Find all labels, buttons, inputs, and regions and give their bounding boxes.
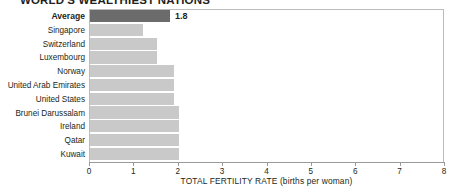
category-label: United States [0, 94, 85, 103]
category-label: Qatar [0, 136, 85, 145]
category-label: Ireland [0, 122, 85, 131]
bar [90, 10, 170, 22]
x-axis-title-main: TOTAL FERTILITY RATE [181, 176, 278, 186]
chart-container: WORLD'S WEALTHIEST NATIONS Average1.8Sin… [0, 0, 457, 192]
table-row: Qatar [0, 134, 457, 146]
category-label: Brunei Darussalam [0, 108, 85, 117]
table-row: Brunei Darussalam [0, 106, 457, 118]
x-axis-tick [311, 162, 312, 166]
chart-title: WORLD'S WEALTHIEST NATIONS [0, 0, 230, 6]
table-row: Average1.8 [0, 10, 457, 22]
category-label: United Arab Emirates [0, 81, 85, 90]
bar [90, 134, 179, 146]
bar [90, 79, 174, 91]
x-axis-tick-label: 1 [131, 167, 136, 176]
x-axis: 012345678 [89, 162, 444, 163]
x-axis-tick [89, 162, 90, 166]
x-axis-tick [444, 162, 445, 166]
x-axis-tick-label: 7 [397, 167, 402, 176]
x-axis-tick-label: 4 [264, 167, 269, 176]
bar [90, 24, 143, 36]
table-row: Switzerland [0, 38, 457, 50]
category-label: Norway [0, 67, 85, 76]
bar [90, 106, 179, 118]
x-axis-tick [355, 162, 356, 166]
category-label: Average [0, 12, 85, 21]
bar [90, 65, 174, 77]
x-axis-tick-label: 5 [309, 167, 314, 176]
bar [90, 120, 179, 132]
x-axis-title-unit: (births per woman) [280, 176, 353, 186]
category-label: Singapore [0, 25, 85, 34]
bar [90, 148, 179, 160]
x-axis-tick [178, 162, 179, 166]
table-row: Luxembourg [0, 51, 457, 63]
table-row: Kuwait [0, 148, 457, 160]
category-label: Luxembourg [0, 53, 85, 62]
x-axis-tick [400, 162, 401, 166]
bar [90, 38, 157, 50]
x-axis-tick [133, 162, 134, 166]
table-row: United Arab Emirates [0, 79, 457, 91]
bar [90, 51, 157, 63]
x-axis-tick [267, 162, 268, 166]
category-label: Switzerland [0, 39, 85, 48]
x-axis-tick-label: 3 [220, 167, 225, 176]
bar [90, 93, 174, 105]
table-row: United States [0, 93, 457, 105]
bar-value-label: 1.8 [175, 11, 188, 21]
category-label: Kuwait [0, 149, 85, 158]
bar-rows: Average1.8SingaporeSwitzerlandLuxembourg… [0, 9, 457, 163]
table-row: Singapore [0, 24, 457, 36]
table-row: Ireland [0, 120, 457, 132]
x-axis-title: TOTAL FERTILITY RATE (births per woman) [89, 176, 444, 186]
x-axis-tick-label: 0 [87, 167, 92, 176]
x-axis-tick [222, 162, 223, 166]
x-axis-tick-label: 6 [353, 167, 358, 176]
x-axis-tick-label: 2 [175, 167, 180, 176]
x-axis-tick-label: 8 [442, 167, 447, 176]
table-row: Norway [0, 65, 457, 77]
